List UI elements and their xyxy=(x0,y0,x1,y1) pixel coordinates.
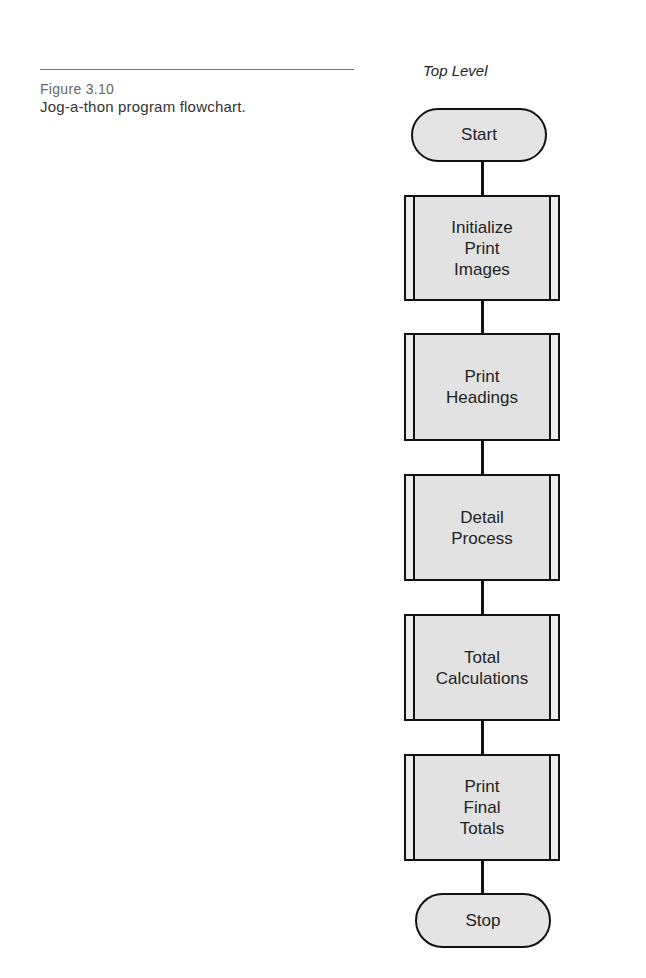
process-label: Total Calculations xyxy=(436,647,529,689)
stop-label: Stop xyxy=(466,911,501,931)
connector-start-step1 xyxy=(481,160,484,196)
process-label: Print Final Totals xyxy=(460,776,504,839)
connector-step2-step3 xyxy=(481,440,484,475)
start-terminal: Start xyxy=(411,108,547,162)
process-initialize-print-images: Initialize Print Images xyxy=(404,195,560,301)
flowchart-title: Top Level xyxy=(423,62,488,79)
process-label: Initialize Print Images xyxy=(451,217,512,280)
process-label: Detail Process xyxy=(451,507,512,549)
connector-step1-step2 xyxy=(481,300,484,334)
process-total-calculations: Total Calculations xyxy=(404,614,560,721)
start-label: Start xyxy=(461,125,497,145)
caption-rule xyxy=(40,69,354,70)
connector-step3-step4 xyxy=(481,580,484,615)
process-label: Print Headings xyxy=(446,366,518,408)
stop-terminal: Stop xyxy=(415,893,551,948)
process-detail-process: Detail Process xyxy=(404,474,560,581)
figure-caption: Jog-a-thon program flowchart. xyxy=(40,98,246,115)
process-print-headings: Print Headings xyxy=(404,333,560,441)
connector-step4-step5 xyxy=(481,720,484,755)
connector-step5-stop xyxy=(481,860,484,894)
process-print-final-totals: Print Final Totals xyxy=(404,754,560,861)
figure-number: Figure 3.10 xyxy=(40,81,114,97)
